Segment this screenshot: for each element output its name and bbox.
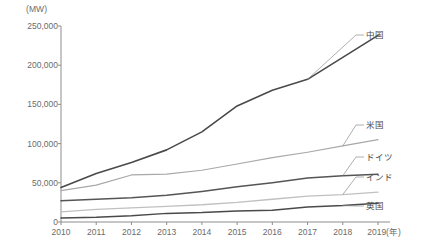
series-line — [61, 203, 378, 218]
series-leader-lines — [308, 35, 364, 206]
x-axis-tick-label: 2017 — [298, 228, 317, 237]
series-leader-line — [308, 35, 364, 79]
chart-plot-area — [0, 0, 429, 249]
x-axis-tick-label: 2019(年) — [367, 228, 401, 237]
series-label: 中国 — [366, 31, 384, 40]
series-lines — [61, 35, 378, 218]
series-label: ドイツ — [366, 153, 393, 162]
series-label: 英国 — [366, 202, 384, 211]
x-axis-tick-label: 2013 — [157, 228, 176, 237]
x-axis-tick-label: 2015 — [228, 228, 247, 237]
x-axis-tick-label: 2010 — [52, 228, 71, 237]
x-axis-tick-label: 2011 — [87, 228, 105, 237]
axis-lines — [61, 26, 390, 222]
x-axis-tick-label: 2016 — [263, 228, 282, 237]
series-label: インド — [366, 173, 393, 182]
x-axis-tick-label: 2014 — [192, 228, 211, 237]
series-leader-line — [343, 157, 364, 176]
series-label: 米国 — [366, 121, 384, 130]
x-axis-tick-label: 2018 — [333, 228, 352, 237]
series-line — [61, 140, 378, 191]
line-chart: (MW) 050,000100,000150,000200,000250,000… — [0, 0, 429, 249]
series-line — [61, 174, 378, 201]
series-leader-line — [343, 177, 364, 195]
series-line — [61, 192, 378, 212]
x-axis-tick-label: 2012 — [122, 228, 141, 237]
